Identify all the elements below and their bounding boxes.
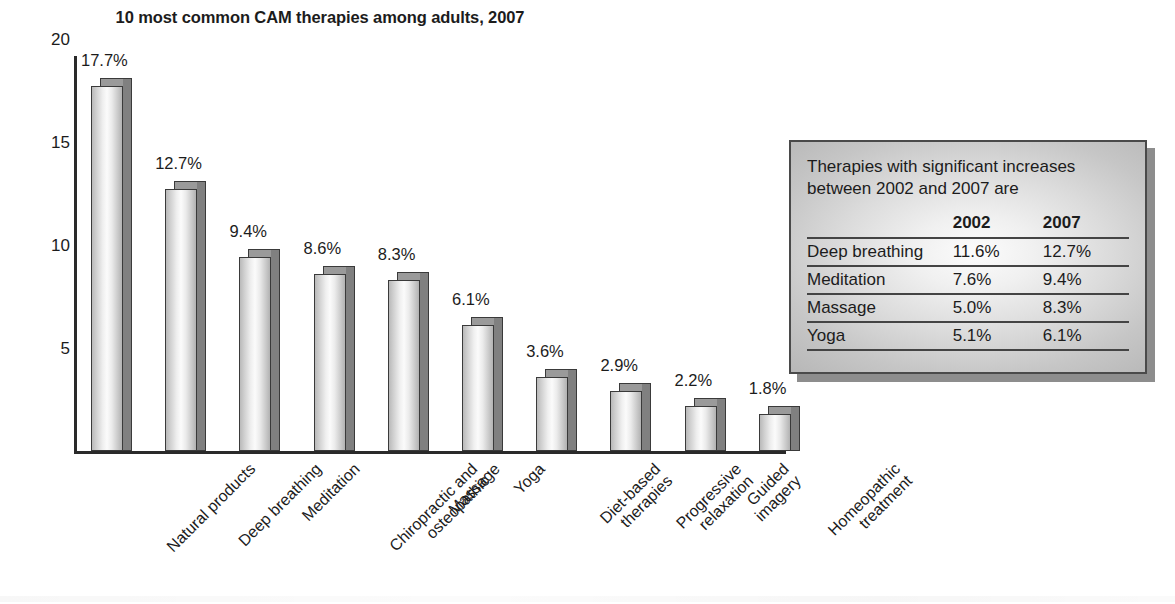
bar — [91, 78, 132, 451]
callout-table-row: Deep breathing11.6%12.7% — [807, 238, 1129, 266]
callout-col-2007: 2007 — [1039, 213, 1129, 238]
callout-cell-2007: 12.7% — [1039, 238, 1129, 266]
bar-front-face — [239, 257, 271, 451]
callout-cell-2002: 7.6% — [949, 266, 1039, 294]
bar-value-label: 17.7% — [81, 52, 128, 69]
bar-value-label: 9.4% — [229, 223, 267, 240]
plot-area: 2015105 17.7%12.7%9.4%8.6%8.3%6.1%3.6%2.… — [0, 0, 790, 604]
bar — [536, 369, 577, 451]
bar — [165, 181, 206, 451]
bar-value-label: 2.2% — [675, 372, 713, 389]
callout-heading: Therapies with significant increases bet… — [807, 156, 1129, 200]
callout-cell-2002: 5.0% — [949, 294, 1039, 322]
chart-figure: 10 most common CAM therapies among adult… — [0, 0, 1175, 604]
bar — [314, 266, 355, 451]
bar-front-face — [314, 274, 346, 451]
bar-side-face — [717, 398, 726, 451]
callout-cell-name: Massage — [807, 294, 949, 322]
callout-cell-2002: 5.1% — [949, 322, 1039, 350]
bar-side-face — [568, 369, 577, 451]
callout-cell-2002: 11.6% — [949, 238, 1039, 266]
callout-box: Therapies with significant increases bet… — [789, 140, 1147, 374]
callout-col-name — [807, 213, 949, 238]
x-axis-label: Yoga — [511, 460, 549, 498]
bar-value-label: 12.7% — [155, 155, 202, 172]
bar-value-label: 8.3% — [378, 246, 416, 263]
bar-side-face — [346, 266, 355, 451]
bar — [388, 272, 429, 451]
bar — [610, 383, 651, 451]
bar-side-face — [494, 317, 503, 451]
bar-value-label: 6.1% — [452, 291, 490, 308]
bar — [759, 406, 800, 451]
callout-table-header-row: 2002 2007 — [807, 213, 1129, 238]
callout-cell-2007: 8.3% — [1039, 294, 1129, 322]
y-axis-tick-10: 10 — [26, 237, 70, 254]
bar-value-label: 1.8% — [749, 380, 787, 397]
x-axis-line — [74, 451, 786, 454]
bar-front-face — [462, 325, 494, 451]
x-axis-label: Guided imagery — [739, 460, 804, 525]
callout-cell-name: Meditation — [807, 266, 949, 294]
callout-cell-2007: 9.4% — [1039, 266, 1129, 294]
bar-value-label: 3.6% — [526, 343, 564, 360]
y-axis-tick-15: 15 — [26, 134, 70, 151]
callout-table-row: Massage5.0%8.3% — [807, 294, 1129, 322]
x-axis-label: Homeopathic treatment — [824, 460, 915, 551]
callout-col-2002: 2002 — [949, 213, 1039, 238]
bar-front-face — [388, 280, 420, 451]
bar-side-face — [271, 249, 280, 451]
x-axis-label: Diet-based therapies — [597, 460, 676, 539]
callout-table: 2002 2007 Deep breathing11.6%12.7%Medita… — [807, 213, 1129, 351]
y-axis-tick-5: 5 — [26, 340, 70, 357]
callout-cell-name: Yoga — [807, 322, 949, 350]
bar-value-label: 8.6% — [304, 240, 342, 257]
callout-table-body: Deep breathing11.6%12.7%Meditation7.6%9.… — [807, 238, 1129, 350]
bar-value-label: 2.9% — [600, 357, 638, 374]
bar-side-face — [123, 78, 132, 451]
y-axis-tick-20: 20 — [26, 31, 70, 48]
bar-front-face — [536, 377, 568, 451]
bar-front-face — [91, 86, 123, 451]
scan-artifact — [0, 596, 1175, 602]
bar — [462, 317, 503, 451]
bar-front-face — [759, 414, 791, 451]
bar-side-face — [420, 272, 429, 451]
bar — [685, 398, 726, 451]
bar-side-face — [791, 406, 800, 451]
callout-cell-2007: 6.1% — [1039, 322, 1129, 350]
callout-table-row: Meditation7.6%9.4% — [807, 266, 1129, 294]
y-axis-line — [74, 56, 77, 454]
bar-front-face — [685, 406, 717, 451]
bar-front-face — [165, 189, 197, 451]
bar — [239, 249, 280, 451]
bar-side-face — [642, 383, 651, 451]
bar-side-face — [197, 181, 206, 451]
callout-cell-name: Deep breathing — [807, 238, 949, 266]
bar-front-face — [610, 391, 642, 451]
callout-table-row: Yoga5.1%6.1% — [807, 322, 1129, 350]
